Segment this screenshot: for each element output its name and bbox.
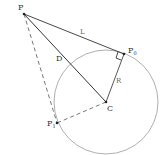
label-P1: P1 <box>47 119 56 129</box>
point-P0 <box>123 53 126 56</box>
segment-dashed-tangent <box>24 14 57 123</box>
point-C <box>105 101 108 104</box>
point-P <box>23 13 26 16</box>
point-P1 <box>56 122 59 125</box>
label-D: D <box>56 54 62 63</box>
label-P: P <box>18 3 24 12</box>
tangent-diagram: P P0 P1 C L D R <box>0 0 161 155</box>
segment-dashed-radius <box>57 102 106 123</box>
label-P0: P0 <box>128 46 137 56</box>
label-R: R <box>116 77 122 85</box>
segment-D <box>24 14 106 102</box>
segment-L <box>24 14 124 54</box>
segment-R <box>106 54 124 102</box>
right-angle-marker <box>116 52 121 60</box>
label-C: C <box>107 104 113 113</box>
label-L: L <box>80 28 85 36</box>
